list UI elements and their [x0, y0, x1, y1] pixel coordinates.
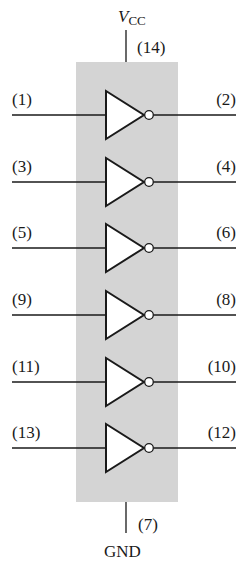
inversion-bubble-icon: [145, 311, 154, 320]
inversion-bubble-icon: [145, 378, 154, 387]
input-pin-label: (11): [12, 357, 40, 376]
inversion-bubble-icon: [145, 111, 154, 120]
chip-body: [76, 62, 178, 502]
input-pin-label: (5): [12, 223, 32, 242]
output-pin-label: (12): [208, 423, 236, 442]
input-pin-label: (1): [12, 90, 32, 109]
output-pin-label: (10): [208, 357, 236, 376]
gnd-label: GND: [104, 542, 141, 561]
inversion-bubble-icon: [145, 444, 154, 453]
vcc-pin-label: (14): [137, 38, 165, 57]
output-pin-label: (2): [216, 90, 236, 109]
hex-inverter-diagram: VCC (14) (7) GND (1) (2) (3) (4) (5) (6)…: [0, 0, 248, 568]
vcc-label: VCC: [118, 7, 146, 28]
input-pin-label: (3): [12, 157, 32, 176]
input-pin-label: (9): [12, 290, 32, 309]
output-pin-label: (6): [216, 223, 236, 242]
input-pin-label: (13): [12, 423, 40, 442]
inversion-bubble-icon: [145, 244, 154, 253]
inversion-bubble-icon: [145, 178, 154, 187]
gnd-pin-label: (7): [138, 515, 158, 534]
output-pin-label: (4): [216, 157, 236, 176]
output-pin-label: (8): [216, 290, 236, 309]
